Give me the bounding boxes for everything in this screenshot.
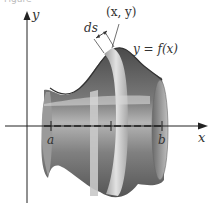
y-axis-arrow-icon (24, 11, 31, 20)
surface-of-revolution-figure: Figure y x (x, y) ds y = f(x) a b (0, 0, 214, 206)
front-band (90, 90, 98, 196)
caption-fragment: Figure (4, 0, 31, 4)
x-axis-arrow-icon (198, 123, 208, 130)
ds-leader-left (94, 39, 104, 53)
point-leader (112, 24, 119, 48)
curve-label: y = f(x) (133, 43, 178, 55)
surface-diagram (0, 0, 214, 206)
b-label: b (158, 134, 166, 146)
y-axis-label: y (32, 8, 39, 21)
point-label: (x, y) (106, 6, 137, 18)
x-axis-label: x (198, 131, 205, 144)
right-end-cap (152, 80, 168, 180)
arc-length-label: ds (84, 22, 98, 34)
a-label: a (47, 134, 54, 146)
surface-body (41, 48, 164, 197)
